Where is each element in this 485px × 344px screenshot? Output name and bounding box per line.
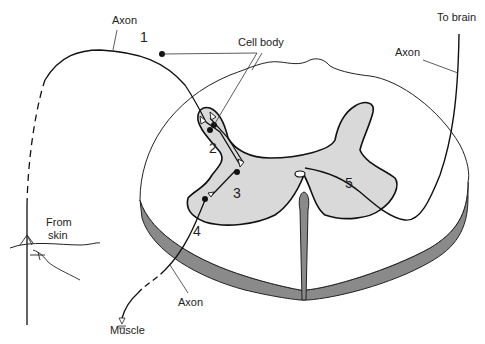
skin-receptor [20,235,80,280]
label-from-skin-2: skin [48,229,68,241]
label-axon-right: Axon [395,46,420,58]
skin-surface [10,243,100,248]
leader-axon-bottom [170,265,188,293]
sensory-axon-dashed [27,80,45,205]
leader-axon-top [113,30,117,50]
leader-cell-body-1 [162,53,257,54]
number-4: 4 [193,223,201,239]
label-from-skin: From [46,216,72,228]
motor-neuron-dot [202,196,208,202]
interneuron-dot [234,169,240,175]
label-muscle: Muscle [110,324,145,336]
label-axon-bottom: Axon [178,296,203,308]
number-1: 1 [140,29,148,45]
motor-axon-end [122,293,138,318]
label-to-brain: To brain [437,11,476,23]
motor-axon-dashed [138,270,165,293]
label-cell-body: Cell body [238,36,284,48]
number-5: 5 [345,175,353,191]
label-axon-top: Axon [112,14,137,26]
leader-axon-right [423,60,458,73]
number-2: 2 [209,140,217,156]
cell-body-dot [207,127,213,133]
number-3: 3 [233,185,241,201]
reflex-arc-diagram: Axon Cell body To brain Axon From skin A… [0,0,485,344]
central-canal [295,171,305,177]
